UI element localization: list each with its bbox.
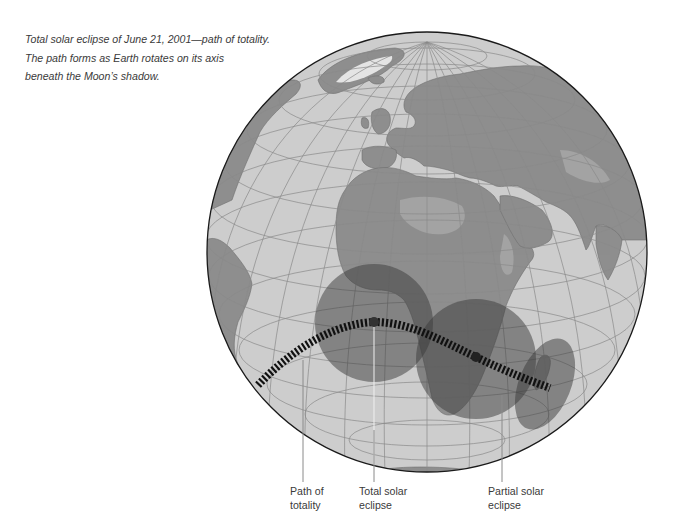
label-total-line-1: Total solar (359, 484, 407, 498)
ireland (361, 118, 369, 129)
label-partial-solar-eclipse: Partial solar eclipse (488, 484, 544, 512)
globe-map (0, 0, 675, 530)
label-total-line-2: eclipse (359, 498, 407, 512)
label-total-solar-eclipse: Total solar eclipse (359, 484, 407, 512)
label-partial-line-2: eclipse (488, 498, 544, 512)
total-eclipse-point (369, 317, 379, 327)
label-path-line-1: Path of (290, 484, 324, 498)
partial-eclipse-point (471, 352, 481, 362)
label-path-line-2: totality (290, 498, 324, 512)
label-partial-line-1: Partial solar (488, 484, 544, 498)
label-path-of-totality: Path of totality (290, 484, 324, 512)
